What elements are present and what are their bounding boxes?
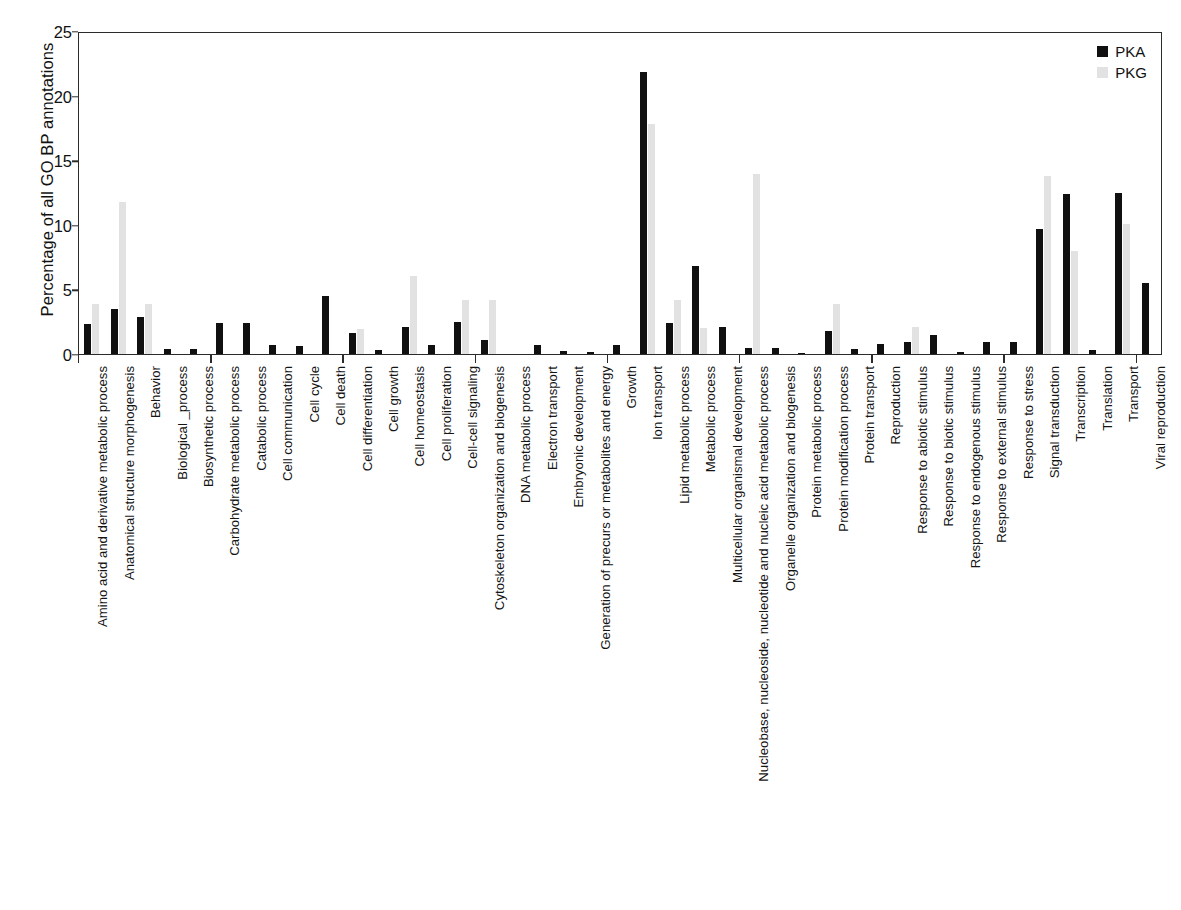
x-tick-label: Electron transport (546, 366, 559, 470)
x-tick-mark (78, 355, 79, 363)
bar-pka (560, 351, 567, 354)
x-tick-label: Metabolic process (704, 366, 717, 472)
x-tick-label: DNA metabolic process (519, 366, 532, 503)
bar-pka (402, 327, 409, 354)
bar-pkg (753, 174, 760, 354)
x-tick-label: Transport (1127, 366, 1140, 422)
bar-pka (851, 349, 858, 354)
x-tick-label: Protein modification process (837, 366, 850, 532)
bar-pka (269, 345, 276, 354)
legend-item-pka: PKA (1097, 41, 1147, 62)
y-tick-label-20: 20 (0, 87, 72, 106)
x-tick-label: Response to abiotic stimulus (916, 366, 929, 534)
bar-pka (1115, 193, 1122, 355)
bar-pka (296, 346, 303, 354)
bar-pka (613, 345, 620, 354)
x-tick-mark (1003, 355, 1004, 363)
x-tick-label: Cell-cell signaling (466, 366, 479, 469)
x-tick-label: Response to endogenous stimulus (969, 366, 982, 568)
legend-swatch-pkg (1097, 67, 1108, 78)
x-tick-mark (1136, 355, 1137, 363)
bar-pka (772, 348, 779, 354)
bar-pkg (489, 300, 496, 354)
bar-pka (983, 342, 990, 354)
bar-pkg (648, 124, 655, 354)
x-tick-label: Behavior (149, 366, 162, 418)
bar-pka (243, 323, 250, 354)
x-tick-label: Catabolic process (255, 366, 268, 471)
bar-pka (534, 345, 541, 354)
bar-pkg (674, 300, 681, 354)
bar-pka (84, 324, 91, 354)
x-tick-label: Translation (1101, 366, 1114, 431)
bar-pka (1142, 283, 1149, 354)
y-tick-label-10: 10 (0, 216, 72, 235)
bar-pka (640, 72, 647, 354)
x-tick-mark (739, 355, 740, 363)
x-tick-label: Biosynthetic process (202, 366, 215, 487)
bar-pka (428, 345, 435, 354)
bar-pka (1089, 350, 1096, 354)
bar-pkg (462, 300, 469, 354)
legend: PKA PKG (1097, 41, 1147, 83)
x-tick-label: Cell proliferation (440, 366, 453, 461)
bar-series-group (79, 33, 1161, 354)
bar-pka (587, 352, 594, 354)
x-tick-label: Transcription (1074, 366, 1087, 442)
x-tick-label: Cell communication (281, 366, 294, 481)
bar-pka (1063, 194, 1070, 354)
bar-pkg (833, 304, 840, 354)
bar-pka (137, 317, 144, 354)
x-tick-label: Ion transport (651, 366, 664, 440)
x-tick-label: Biological _process (176, 366, 189, 480)
bar-pka (877, 344, 884, 354)
x-tick-label: Generation of precurs or metabolites and… (599, 366, 612, 650)
bar-pka (825, 331, 832, 354)
bar-pkg (119, 202, 126, 354)
x-tick-label: Cytoskeleton organization and biogenesis (493, 366, 506, 610)
bar-pka (745, 348, 752, 354)
x-tick-label: Cell homeostasis (413, 366, 426, 466)
bar-pka (216, 323, 223, 354)
y-tick-label-25: 25 (0, 23, 72, 42)
x-tick-label: Embryonic development (572, 366, 585, 507)
bar-pkg (145, 304, 152, 354)
bar-pkg (1071, 251, 1078, 354)
x-tick-label: Lipid metabolic process (678, 366, 691, 504)
bar-pkg (700, 328, 707, 354)
bar-pka (349, 333, 356, 354)
bar-pka (904, 342, 911, 354)
bar-pka (454, 322, 461, 354)
x-tick-mark (342, 355, 343, 363)
x-tick-label: Cell cycle (308, 366, 321, 422)
x-tick-mark (871, 355, 872, 363)
x-tick-label: Growth (625, 366, 638, 409)
x-tick-label: Amino acid and derivative metabolic proc… (96, 366, 109, 627)
x-tick-label: Reproduction (889, 366, 902, 444)
bar-pka (164, 349, 171, 354)
bar-pkg (357, 329, 364, 354)
x-tick-label: Anatomical structure morphogenesis (123, 366, 136, 580)
y-tick-label-0: 0 (0, 346, 72, 365)
bar-pka (719, 327, 726, 354)
x-tick-label: Viral reproduction (1154, 366, 1167, 469)
x-tick-label: Cell growth (387, 366, 400, 432)
x-tick-label: Protein metabolic process (810, 366, 823, 518)
x-tick-label: Response to stress (1022, 366, 1035, 479)
bar-pka (692, 266, 699, 354)
legend-item-pkg: PKG (1097, 62, 1147, 83)
x-tick-label: Response to external stimulus (995, 366, 1008, 543)
bar-pka (666, 323, 673, 354)
bar-pka (375, 350, 382, 354)
x-tick-label: Organelle organization and biogenesis (784, 366, 797, 591)
legend-swatch-pka (1097, 46, 1108, 57)
x-tick-label: Signal transduction (1048, 366, 1061, 478)
bar-pka (481, 340, 488, 354)
x-tick-label: Response to biotic stimulus (942, 366, 955, 527)
bar-pka (798, 353, 805, 354)
y-tick-label-15: 15 (0, 152, 72, 171)
y-tick-label-5: 5 (0, 281, 72, 300)
bar-pka (111, 309, 118, 354)
bar-pkg (92, 304, 99, 354)
x-axis-labels: Amino acid and derivative metabolic proc… (78, 366, 1162, 796)
